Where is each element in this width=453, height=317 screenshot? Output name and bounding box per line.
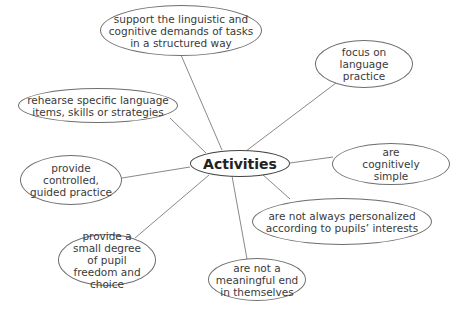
node-controlled-label: provide controlled, guided practice xyxy=(29,162,113,198)
node-freedom: provide a small degree of pupil freedom … xyxy=(58,234,156,286)
node-activities-label: Activities xyxy=(203,158,277,170)
edge-simple xyxy=(290,157,333,163)
edge-freedom xyxy=(135,175,209,238)
edge-focus xyxy=(246,83,336,151)
edge-support xyxy=(181,55,222,150)
node-activities-center: Activities xyxy=(190,150,290,177)
node-support-label: support the linguistic and cognitive dem… xyxy=(107,13,255,49)
node-support: support the linguistic and cognitive dem… xyxy=(100,5,262,56)
edge-personalized xyxy=(262,174,290,199)
edge-controlled xyxy=(122,167,190,178)
node-focus: focus on language practice xyxy=(315,40,413,88)
node-focus-label: focus on language practice xyxy=(324,46,404,82)
node-freedom-label: provide a small degree of pupil freedom … xyxy=(69,230,145,290)
node-personalized-label: are not always personalized according to… xyxy=(263,210,421,234)
node-controlled: provide controlled, guided practice xyxy=(20,155,122,205)
node-personalized: are not always personalized according to… xyxy=(252,198,432,245)
node-meaningful: are not a meaningful end in themselves xyxy=(208,258,306,301)
edge-meaningful xyxy=(232,176,247,259)
node-simple: are cognitively simple xyxy=(332,143,450,185)
edge-rehearse xyxy=(170,118,206,153)
node-rehearse-label: rehearse specific language items, skills… xyxy=(23,94,173,118)
node-rehearse: rehearse specific language items, skills… xyxy=(18,88,178,123)
node-meaningful-label: are not a meaningful end in themselves xyxy=(213,262,301,298)
node-simple-label: are cognitively simple xyxy=(355,146,427,182)
